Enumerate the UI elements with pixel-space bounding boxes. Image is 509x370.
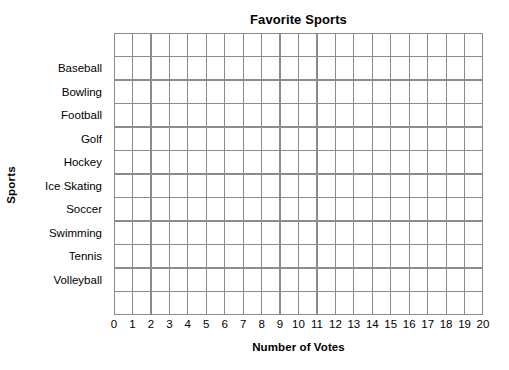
y-axis-tick-label: Baseball [0, 61, 102, 75]
y-axis-tick-label: Football [0, 108, 102, 122]
x-axis-tick-label: 6 [221, 317, 227, 331]
chart-title: Favorite Sports [114, 12, 483, 28]
plot-area [114, 33, 483, 315]
x-axis-title: Number of Votes [114, 340, 483, 354]
x-axis-tick-label: 17 [421, 317, 434, 331]
grid-lines [114, 33, 483, 315]
x-axis-tick-label: 9 [277, 317, 283, 331]
x-axis-tick-label: 13 [347, 317, 360, 331]
y-axis-tick-label: Swimming [0, 226, 102, 240]
y-axis-tick-label: Bowling [0, 85, 102, 99]
x-axis-tick-label: 5 [203, 317, 209, 331]
y-axis-tick-label: Golf [0, 132, 102, 146]
x-axis-tick-label: 2 [148, 317, 154, 331]
x-axis-tick-label: 3 [166, 317, 172, 331]
x-axis-tick-label: 1 [129, 317, 135, 331]
x-axis-tick-label: 8 [258, 317, 264, 331]
x-axis-tick-label: 4 [185, 317, 191, 331]
x-axis-tick-label: 7 [240, 317, 246, 331]
x-axis-tick-label: 15 [384, 317, 397, 331]
x-axis-tick-label: 20 [477, 317, 490, 331]
y-axis-tick-label: Volleyball [0, 273, 102, 287]
y-axis-tick-label: Tennis [0, 249, 102, 263]
x-axis-tick-label: 11 [311, 317, 323, 331]
x-axis-tick-label: 0 [111, 317, 117, 331]
x-axis-tick-labels: 01234567891011121314151617181920 [114, 317, 483, 333]
x-axis-tick-label: 19 [458, 317, 471, 331]
x-axis-tick-label: 12 [329, 317, 342, 331]
y-axis-title-text: Sports [5, 166, 17, 204]
x-axis-tick-label: 10 [292, 317, 305, 331]
x-axis-tick-label: 14 [366, 317, 379, 331]
y-axis-title: Sports [4, 155, 18, 215]
x-axis-tick-label: 16 [403, 317, 416, 331]
x-axis-tick-label: 18 [440, 317, 453, 331]
